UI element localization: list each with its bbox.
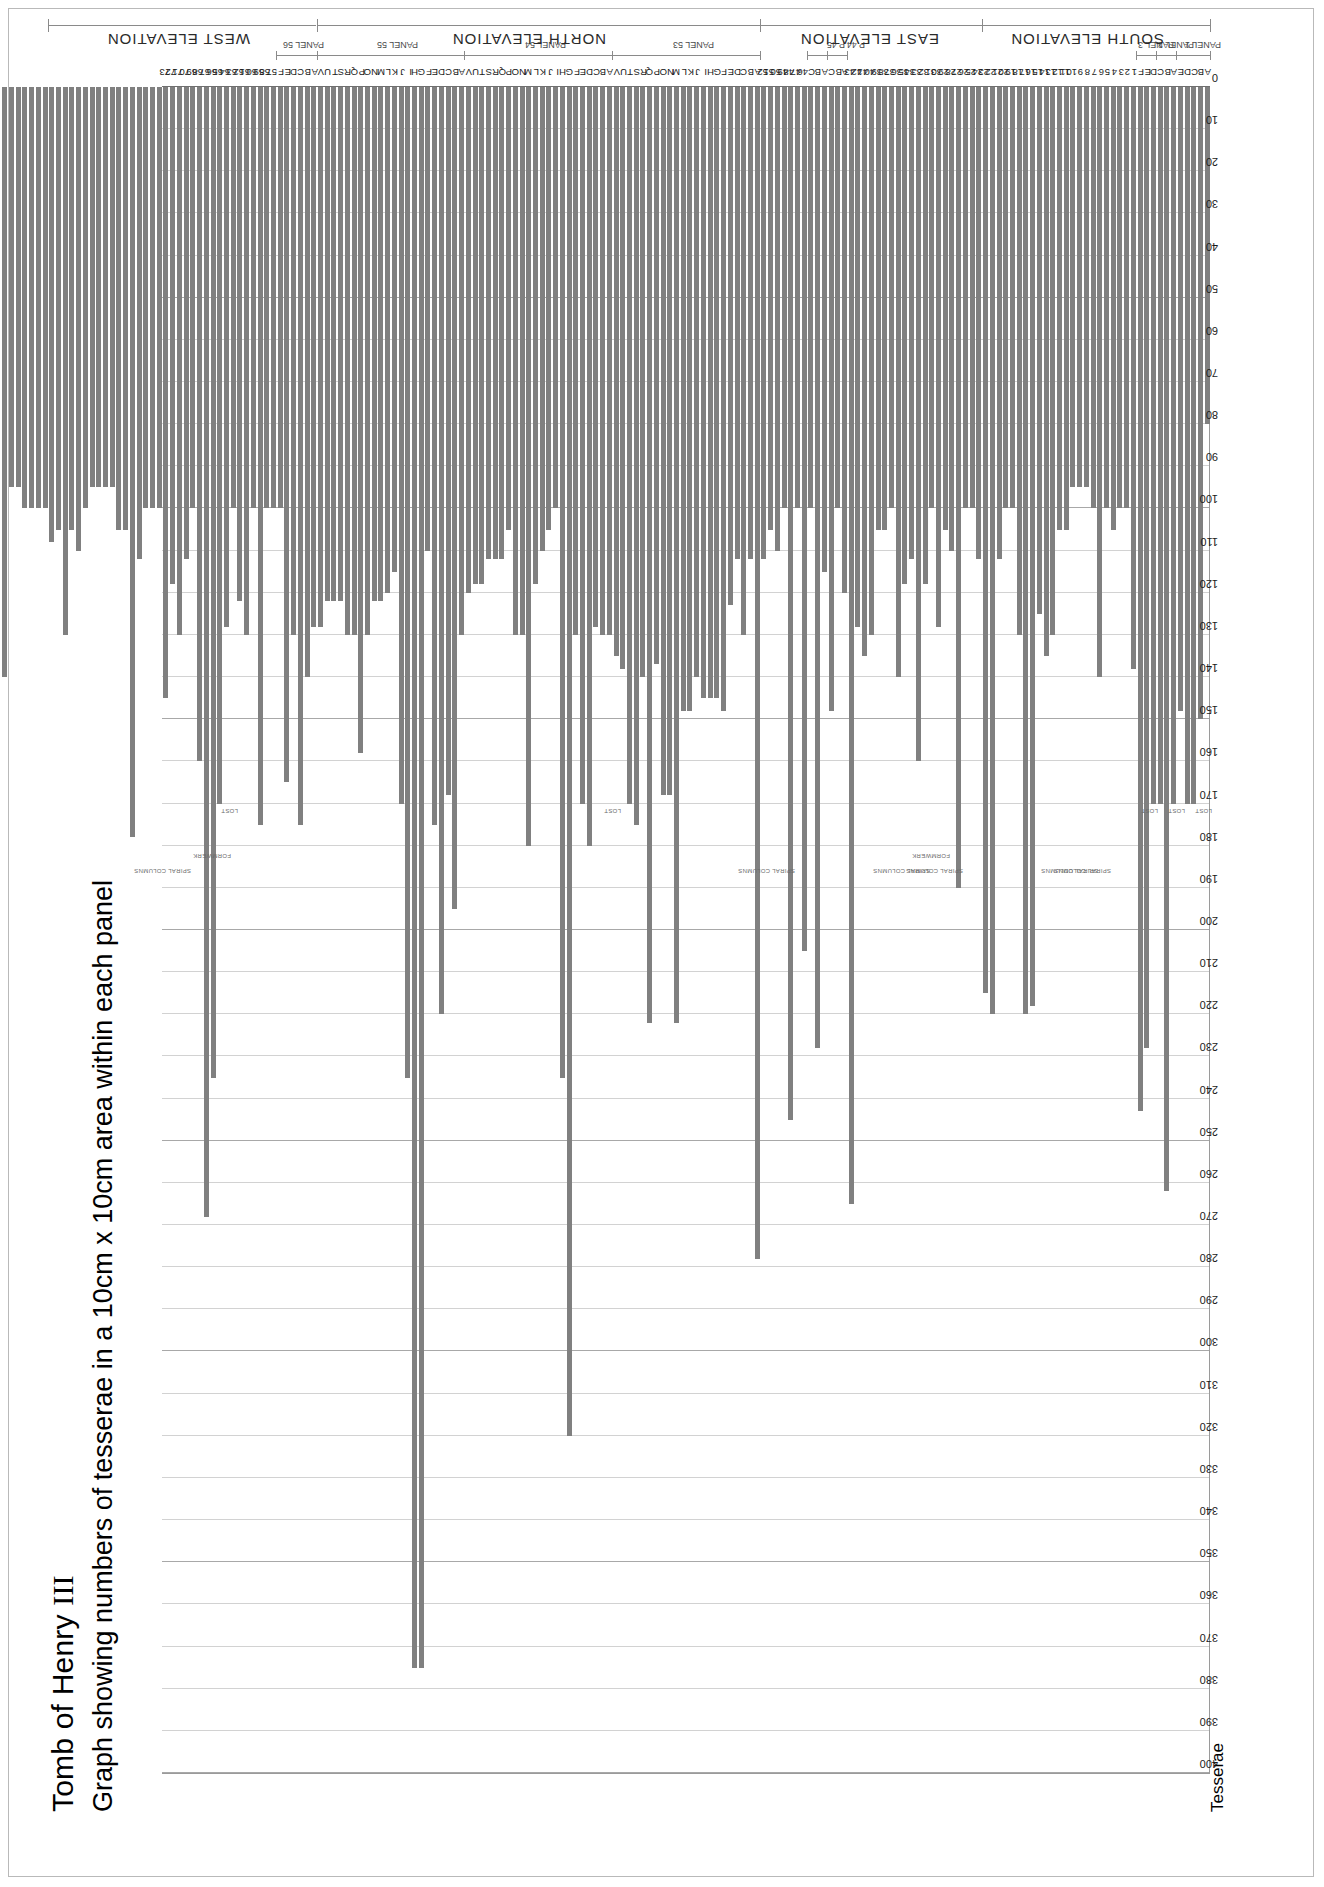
value-tick-label: 350 [1200,1547,1218,1559]
bar [533,87,538,584]
bar [882,87,887,530]
bar [331,87,336,601]
page-title: Tomb of Henry III [46,1575,80,1812]
bar [49,87,54,542]
value-tick-label: 0 [1212,72,1218,84]
category-label: E [284,67,290,78]
bar [143,87,148,509]
category-label: L [534,67,539,78]
category-label: J [548,67,553,78]
category-label: G [418,67,425,78]
elevation-bracket-line [317,25,760,26]
category-label: P [654,67,660,78]
bar [728,87,733,605]
category-label: U [620,67,627,78]
bar [372,87,377,601]
elevation-bracket-cap [48,19,49,32]
bar [936,87,941,627]
bar [358,87,363,753]
bar [271,87,276,509]
category-label: E [728,67,734,78]
bar [640,87,645,677]
panel-bracket-cap [1176,51,1177,60]
category-label: S [338,67,344,78]
bar [224,87,229,627]
category-label: V [318,67,324,78]
category-label: B [1198,67,1204,78]
panel-bracket-cap [847,51,848,60]
bar [466,87,471,593]
panel-bracket-cap [807,51,808,60]
bar [284,87,289,782]
bar [137,87,142,559]
value-tick-label: 360 [1200,1589,1218,1601]
bar [278,87,283,509]
bar [580,87,585,804]
bar [1171,87,1176,804]
bar [1131,87,1136,669]
bar [815,87,820,1048]
category-label: T [480,67,486,78]
bar [244,87,249,635]
category-label: D [438,67,445,78]
bar [473,87,478,584]
bar [237,87,242,601]
bar [661,87,666,795]
bar [876,87,881,530]
elevation-bracket-cap [982,19,983,32]
bar [1164,87,1169,1191]
plot-area [162,88,1210,1774]
bar [1037,87,1042,614]
category-label: S [486,67,492,78]
bar [802,87,807,951]
bar [123,87,128,530]
value-tick-label: 330 [1200,1463,1218,1475]
bar [896,87,901,677]
bar [1023,87,1028,1014]
bar [1117,87,1122,509]
bar [614,87,619,656]
value-tick-label: 260 [1200,1168,1218,1180]
bar [687,87,692,711]
bar [1124,87,1129,509]
bar [22,87,27,509]
category-label: 9 [1078,67,1083,78]
category-label: B [600,67,606,78]
plot-annotation: LOST [604,808,621,814]
bar [741,87,746,635]
value-tick-label: 80 [1206,409,1218,421]
bar [204,87,209,1217]
category-label: V [466,67,472,78]
elevation-bracket-line [48,25,317,26]
bar [674,87,679,1023]
category-label: D [734,67,741,78]
bar [889,87,894,509]
bar [970,87,975,509]
bar [63,87,68,635]
bar [338,87,343,601]
category-label: I [557,67,560,78]
bar [150,87,155,509]
bar [258,87,263,825]
bar [540,87,545,551]
value-tick-label: 380 [1200,1674,1218,1686]
category-label: D [1150,67,1157,78]
bar [782,87,787,509]
category-label: Q [350,67,357,78]
bar [997,87,1002,559]
bar [627,87,632,804]
value-tick-label: 160 [1200,746,1218,758]
bar [452,87,457,909]
bar [909,87,914,559]
elevation-bracket-cap [760,19,761,32]
category-label: P [358,67,364,78]
category-label: C [1191,67,1198,78]
panel-bracket-cap [1136,51,1137,60]
bar [822,87,827,572]
category-label: C [1157,67,1164,78]
bar [479,87,484,584]
category-label: B [748,67,754,78]
category-label: V [613,67,619,78]
bar [9,87,14,487]
bar [1151,87,1156,804]
